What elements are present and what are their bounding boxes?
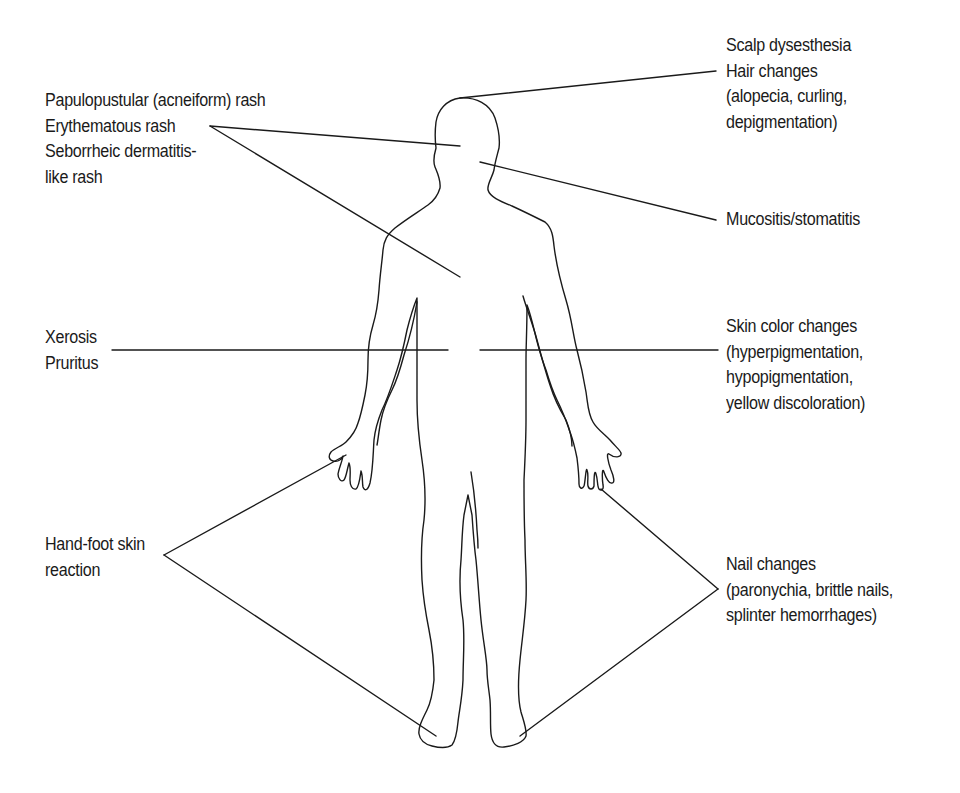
label-scalp-line-2: Hair changes — [726, 59, 851, 85]
label-xerosis-line-2: Pruritus — [45, 351, 98, 377]
label-scalp-line-1: Scalp dysesthesia — [726, 33, 851, 59]
inner-leg-line — [471, 472, 478, 548]
label-rash-line-2: Erythematous rash — [45, 114, 266, 140]
leader-nail-foot — [520, 589, 718, 736]
label-scalp-line-4: depigmentation) — [726, 110, 851, 136]
label-rash: Papulopustular (acneiform) rash Erythema… — [45, 88, 266, 190]
leader-nail-hand — [601, 489, 718, 589]
label-scalp-line-3: (alopecia, curling, — [726, 84, 851, 110]
label-hand-foot-line-1: Hand-foot skin — [45, 532, 145, 558]
label-nail-line-3: splinter hemorrhages) — [726, 603, 893, 629]
label-skin-color-line-4: yellow discoloration) — [726, 391, 865, 417]
body-outline — [329, 98, 621, 747]
label-skin-color-line-2: (hyperpigmentation, — [726, 340, 865, 366]
label-rash-line-4: like rash — [45, 165, 266, 191]
label-hand-foot: Hand-foot skin reaction — [45, 532, 145, 583]
label-rash-line-3: Seborrheic dermatitis- — [45, 139, 266, 165]
label-mucositis-line-1: Mucositis/stomatitis — [726, 207, 860, 233]
leader-hand — [164, 455, 346, 555]
leader-foot-right — [164, 555, 436, 736]
inner-arm-line-left — [523, 296, 572, 446]
label-nail: Nail changes (paronychia, brittle nails,… — [726, 552, 893, 629]
label-hand-foot-line-2: reaction — [45, 558, 145, 584]
leader-scalp — [460, 71, 716, 98]
label-mucositis: Mucositis/stomatitis — [726, 207, 860, 233]
label-skin-color-line-3: hypopigmentation, — [726, 365, 865, 391]
label-xerosis: Xerosis Pruritus — [45, 325, 98, 376]
label-xerosis-line-1: Xerosis — [45, 325, 98, 351]
label-scalp: Scalp dysesthesia Hair changes (alopecia… — [726, 33, 851, 135]
leader-mucositis — [480, 162, 716, 220]
label-nail-line-1: Nail changes — [726, 552, 893, 578]
label-nail-line-2: (paronychia, brittle nails, — [726, 578, 893, 604]
label-rash-line-1: Papulopustular (acneiform) rash — [45, 88, 266, 114]
label-skin-color: Skin color changes (hyperpigmentation, h… — [726, 314, 865, 416]
label-skin-color-line-1: Skin color changes — [726, 314, 865, 340]
inner-arm-line-right — [377, 302, 417, 445]
